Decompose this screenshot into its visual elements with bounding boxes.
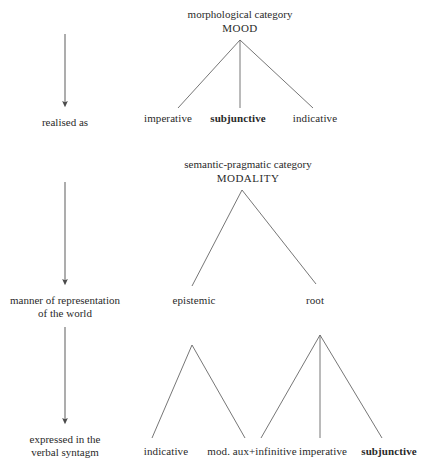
branch-root-subjunctive: [320, 335, 382, 438]
tree-modality-branches: [192, 190, 316, 286]
tree-root-branches: [261, 335, 382, 438]
diagram-canvas: realised as manner of representation of …: [0, 0, 429, 466]
node-modality-head: semantic-pragmatic category MODALITY: [184, 157, 311, 185]
modality-category-label: semantic-pragmatic category: [184, 157, 311, 171]
stage-label-realised-as: realised as: [42, 116, 88, 129]
tree-epistemic-branches: [152, 345, 245, 438]
stage-label-expressed-in-verbal-syntagm: expressed in the verbal syntagm: [30, 433, 101, 459]
mood-category-label: morphological category: [188, 7, 293, 21]
leaf-mod-aux-infinitive: mod. aux+infinitive: [207, 445, 296, 458]
leaf-imperative-root: imperative: [299, 445, 347, 458]
node-root: root: [306, 294, 324, 307]
branch-epistemic-modaux: [192, 345, 245, 438]
node-epistemic: epistemic: [172, 294, 215, 307]
leaf-subjunctive-mood: subjunctive: [210, 112, 266, 125]
mood-node-label: MOOD: [188, 21, 293, 35]
stage-label-manner-of-representation: manner of representation of the world: [10, 294, 120, 320]
diagram-lines: [0, 0, 429, 466]
node-mood-head: morphological category MOOD: [188, 7, 293, 35]
branch-modality-root: [242, 190, 316, 284]
branch-mood-indicative: [240, 40, 313, 108]
branch-mood-imperative: [178, 40, 240, 108]
branch-epistemic-indicative: [152, 345, 192, 438]
leaf-imperative-mood: imperative: [144, 112, 192, 125]
branch-modality-epistemic: [192, 190, 242, 286]
leaf-indicative-epistemic: indicative: [144, 445, 188, 458]
leaf-indicative-mood: indicative: [293, 112, 337, 125]
tree-mood-branches: [178, 40, 313, 108]
branch-root-modaux: [261, 335, 320, 438]
modality-node-label: MODALITY: [184, 171, 311, 185]
leaf-subjunctive-root: subjunctive: [361, 445, 417, 458]
